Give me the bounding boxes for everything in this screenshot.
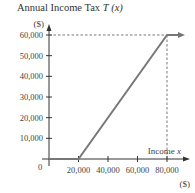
y-tick-label: 20,000	[20, 113, 43, 123]
line-arrow-icon	[178, 32, 185, 38]
x-axis-arrow-icon	[183, 157, 190, 162]
y-tick-label: 40,000	[20, 71, 43, 81]
tick-labels: 10,00020,00030,00040,00050,00060,00020,0…	[20, 19, 190, 189]
y-tick-label: 10,000	[20, 133, 43, 143]
y-tick-label: 30,000	[20, 92, 43, 102]
reference-lines	[49, 35, 167, 159]
x-tick-label: 60,000	[126, 165, 149, 175]
y-tick-label: 50,000	[20, 51, 43, 61]
origin-label: 0	[38, 162, 42, 172]
y-axis-arrow-icon	[47, 24, 52, 31]
x-tick-label: 80,000	[155, 165, 178, 175]
x-axis-label: Income x	[148, 146, 181, 156]
x-tick-label: 20,000	[67, 165, 90, 175]
y-tick-label: 60,000	[20, 30, 43, 40]
data-series	[49, 32, 185, 159]
tax-function-line	[49, 35, 178, 159]
axes	[42, 24, 190, 166]
x-tick-label: 40,000	[96, 165, 119, 175]
y-axis-unit-label: ($)	[34, 19, 45, 29]
chart-plot: 10,00020,00030,00040,00050,00060,00020,0…	[0, 0, 195, 193]
x-axis-unit-label: ($)	[180, 179, 191, 189]
